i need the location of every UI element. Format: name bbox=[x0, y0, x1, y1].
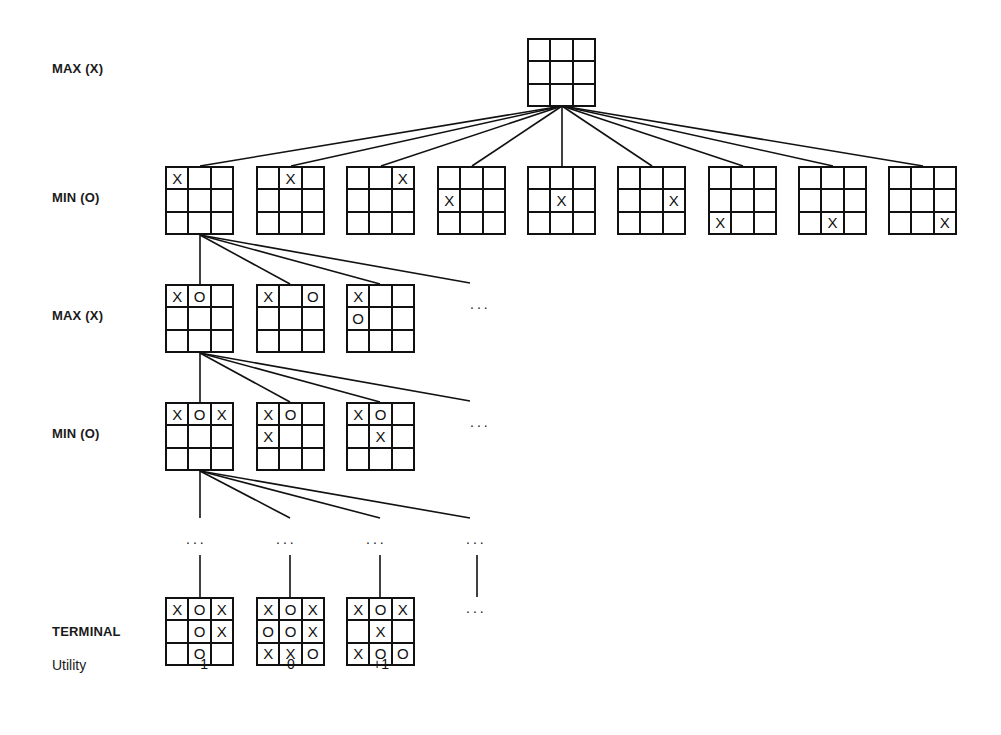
cell-empty bbox=[799, 212, 821, 234]
cell-empty bbox=[211, 330, 233, 352]
cell-empty bbox=[392, 425, 414, 447]
cell-empty bbox=[347, 167, 369, 189]
cell-empty bbox=[188, 212, 210, 234]
cell-x-mark: X bbox=[257, 598, 279, 620]
board-level1: X bbox=[798, 166, 867, 235]
cell-x-mark: X bbox=[438, 189, 460, 211]
cell-empty bbox=[911, 212, 933, 234]
cell-empty bbox=[573, 61, 595, 83]
cell-empty bbox=[663, 167, 685, 189]
level-label-max-2: MAX (X) bbox=[52, 308, 103, 323]
cell-empty bbox=[302, 425, 324, 447]
ellipsis-more-nodes: ... bbox=[466, 600, 487, 616]
cell-empty bbox=[731, 189, 753, 211]
cell-empty bbox=[279, 285, 301, 307]
cell-empty bbox=[211, 189, 233, 211]
cell-o-mark: O bbox=[369, 403, 391, 425]
board-level2: XO bbox=[346, 284, 415, 353]
cell-empty bbox=[528, 61, 550, 83]
board-level3: XOX bbox=[346, 402, 415, 471]
cell-empty bbox=[279, 212, 301, 234]
utility-value: −1 bbox=[165, 656, 235, 672]
cell-empty bbox=[369, 285, 391, 307]
cell-x-mark: X bbox=[279, 167, 301, 189]
level-label-utility: Utility bbox=[52, 657, 86, 673]
cell-empty bbox=[166, 212, 188, 234]
cell-empty bbox=[279, 189, 301, 211]
cell-empty bbox=[460, 189, 482, 211]
cell-empty bbox=[166, 448, 188, 470]
cell-empty bbox=[188, 167, 210, 189]
cell-x-mark: X bbox=[211, 598, 233, 620]
cell-empty bbox=[550, 84, 572, 106]
cell-empty bbox=[188, 425, 210, 447]
cell-x-mark: X bbox=[709, 212, 731, 234]
cell-empty bbox=[483, 212, 505, 234]
level-label-max-root: MAX (X) bbox=[52, 61, 103, 76]
cell-empty bbox=[821, 167, 843, 189]
cell-empty bbox=[911, 189, 933, 211]
cell-empty bbox=[821, 189, 843, 211]
utility-value: 0 bbox=[256, 656, 326, 672]
cell-empty bbox=[460, 167, 482, 189]
cell-empty bbox=[369, 167, 391, 189]
tree-edge bbox=[200, 106, 562, 166]
game-tree-diagram: MAX (X) MIN (O) MAX (X) MIN (O) TERMINAL… bbox=[0, 0, 1001, 735]
utility-value: +1 bbox=[346, 656, 416, 672]
cell-empty bbox=[663, 212, 685, 234]
cell-empty bbox=[347, 330, 369, 352]
board-level3: XOX bbox=[256, 402, 325, 471]
cell-empty bbox=[302, 212, 324, 234]
board-level1: X bbox=[527, 166, 596, 235]
cell-empty bbox=[618, 167, 640, 189]
cell-x-mark: X bbox=[166, 598, 188, 620]
cell-empty bbox=[369, 448, 391, 470]
cell-empty bbox=[528, 84, 550, 106]
cell-empty bbox=[550, 167, 572, 189]
cell-x-mark: X bbox=[211, 403, 233, 425]
board-root bbox=[527, 38, 596, 107]
cell-empty bbox=[550, 39, 572, 61]
cell-o-mark: O bbox=[302, 285, 324, 307]
cell-empty bbox=[347, 189, 369, 211]
cell-empty bbox=[302, 330, 324, 352]
cell-empty bbox=[392, 330, 414, 352]
cell-x-mark: X bbox=[257, 403, 279, 425]
ellipsis-more-nodes: ... bbox=[366, 531, 387, 547]
cell-empty bbox=[483, 189, 505, 211]
cell-x-mark: X bbox=[550, 189, 572, 211]
cell-empty bbox=[302, 403, 324, 425]
cell-x-mark: X bbox=[302, 620, 324, 642]
cell-empty bbox=[211, 307, 233, 329]
cell-empty bbox=[392, 620, 414, 642]
tree-edge bbox=[381, 106, 562, 166]
cell-empty bbox=[934, 189, 956, 211]
cell-empty bbox=[369, 212, 391, 234]
cell-empty bbox=[392, 307, 414, 329]
cell-empty bbox=[911, 167, 933, 189]
cell-empty bbox=[754, 212, 776, 234]
board-level3: XOX bbox=[165, 402, 234, 471]
tree-edge bbox=[200, 353, 470, 401]
cell-x-mark: X bbox=[663, 189, 685, 211]
cell-empty bbox=[392, 189, 414, 211]
cell-empty bbox=[528, 167, 550, 189]
cell-empty bbox=[483, 167, 505, 189]
cell-empty bbox=[640, 212, 662, 234]
cell-x-mark: X bbox=[166, 167, 188, 189]
cell-x-mark: X bbox=[257, 425, 279, 447]
cell-empty bbox=[211, 167, 233, 189]
level-label-min-3: MIN (O) bbox=[52, 426, 100, 441]
cell-empty bbox=[731, 167, 753, 189]
cell-empty bbox=[369, 330, 391, 352]
cell-empty bbox=[392, 448, 414, 470]
cell-x-mark: X bbox=[211, 620, 233, 642]
cell-empty bbox=[731, 212, 753, 234]
cell-empty bbox=[618, 212, 640, 234]
tree-edge bbox=[200, 235, 470, 283]
cell-o-mark: O bbox=[279, 620, 301, 642]
cell-x-mark: X bbox=[166, 403, 188, 425]
cell-empty bbox=[166, 307, 188, 329]
tree-edges bbox=[0, 0, 1001, 735]
tree-edge bbox=[562, 106, 743, 166]
